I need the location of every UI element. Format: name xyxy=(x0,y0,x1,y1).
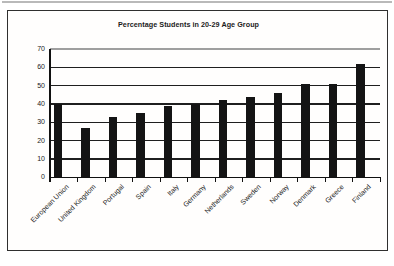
bar xyxy=(356,64,365,178)
plot-area: 010203040506070European UnionUnited King… xyxy=(0,0,394,266)
bar xyxy=(109,117,118,178)
y-tick-label: 0 xyxy=(20,173,45,181)
axis-tick xyxy=(215,178,216,182)
axis-tick xyxy=(50,178,51,182)
bar xyxy=(54,104,63,177)
axis-tick xyxy=(77,178,78,182)
axis-tick xyxy=(132,178,133,182)
y-axis xyxy=(49,49,51,182)
axis-tick xyxy=(105,178,106,182)
gridline xyxy=(50,48,380,49)
y-tick-label: 40 xyxy=(20,100,45,108)
bar xyxy=(219,100,228,177)
y-tick-label: 50 xyxy=(20,82,45,90)
axis-tick xyxy=(160,178,161,182)
bar xyxy=(164,106,173,178)
axis-tick xyxy=(187,178,188,182)
axis-tick xyxy=(325,178,326,182)
bar xyxy=(246,97,255,178)
axis-tick xyxy=(270,178,271,182)
bar xyxy=(81,128,90,178)
y-tick-label: 30 xyxy=(20,118,45,126)
bar xyxy=(191,104,200,177)
axis-tick xyxy=(242,178,243,182)
bar xyxy=(136,113,145,177)
axis-tick xyxy=(297,178,298,182)
y-tick-label: 20 xyxy=(20,137,45,145)
y-tick-label: 60 xyxy=(20,63,45,71)
gridline xyxy=(50,67,380,68)
axis-tick xyxy=(352,178,353,182)
bar xyxy=(274,93,283,177)
y-tick-label: 70 xyxy=(20,45,45,53)
y-tick-label: 10 xyxy=(20,155,45,163)
axis-tick xyxy=(380,178,381,182)
bar xyxy=(301,84,310,178)
bar xyxy=(329,84,338,178)
